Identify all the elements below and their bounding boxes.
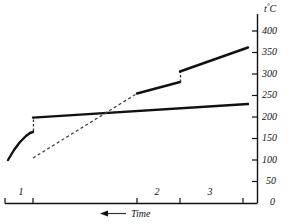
- y-tick-label-100: 100: [262, 154, 277, 165]
- x-axis-title: Time: [131, 208, 150, 219]
- time-direction-arrow: [100, 211, 126, 217]
- series-lower-plateau-line: [33, 104, 248, 118]
- x-tick-label-3: 3: [205, 186, 215, 197]
- x-tick-label-1: 1: [16, 186, 26, 197]
- y-tick-label-300: 300: [262, 68, 277, 79]
- y-tick-label-50: 50: [266, 175, 276, 186]
- y-tick-label-150: 150: [262, 132, 277, 143]
- x-axis-ticks: [5, 198, 243, 204]
- chart-plot-area: [0, 0, 292, 224]
- x-tick-label-2: 2: [152, 186, 162, 197]
- series-upper-rise-segment-b: [180, 48, 248, 72]
- y-axis-ticks: [252, 31, 258, 182]
- y-tick-label-200: 200: [262, 111, 277, 122]
- y-tick-label-0: 0: [270, 196, 275, 207]
- y-tick-label-250: 250: [262, 89, 277, 100]
- series-dashed-rise: [33, 94, 137, 159]
- series-upper-rise-segment-a: [137, 82, 180, 94]
- series-initial-heating-curve: [8, 132, 33, 160]
- y-tick-label-350: 350: [262, 46, 277, 57]
- y-axis-title-unit: C: [270, 3, 277, 14]
- y-axis-title: t°C: [264, 2, 276, 14]
- y-tick-label-400: 400: [262, 25, 277, 36]
- chart-figure: 400 350 300 250 200 150 100 50 0 1 2 3 t…: [0, 0, 292, 224]
